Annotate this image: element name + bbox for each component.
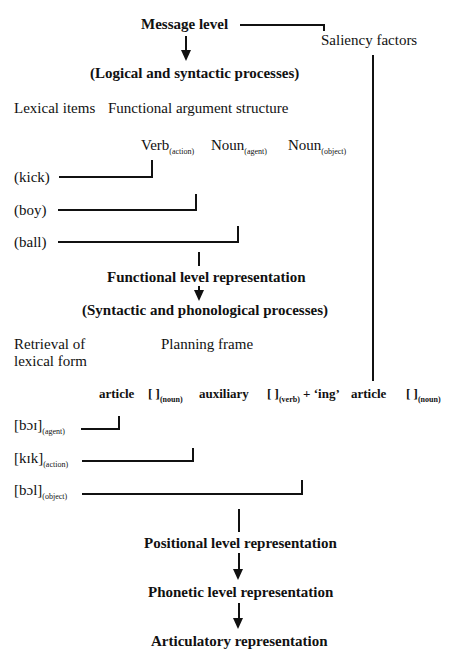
boy-link-line	[58, 209, 197, 211]
retrieval-label-line2: lexical form	[14, 354, 87, 369]
saliency-factors-label: Saliency factors	[321, 33, 417, 48]
ball-form-link-line	[82, 493, 303, 495]
lexical-item-kick: (kick)	[14, 170, 50, 185]
logical-syntactic-processes-label: (Logical and syntactic processes)	[90, 66, 299, 81]
message-level-label: Message level	[141, 17, 228, 32]
boy-form-link-line	[81, 428, 120, 430]
kick-link-line	[59, 176, 153, 178]
frame-auxiliary: auxiliary	[199, 387, 249, 400]
kick-form-link-line	[82, 460, 194, 462]
slot-noun-agent: Noun(agent)	[211, 138, 267, 153]
frame-noun-slot-2: [ ](noun)	[406, 387, 441, 400]
slot-noun-object: Noun(object)	[288, 138, 346, 153]
message-to-saliency-line	[240, 24, 324, 26]
functional-argument-structure-label: Functional argument structure	[108, 101, 289, 116]
frame-article-2: article	[351, 387, 386, 400]
lexical-items-label: Lexical items	[14, 101, 95, 116]
ball-link-line	[58, 241, 239, 243]
form-ball-object: [bɔl](object)	[14, 483, 67, 498]
functional-level-label: Functional level representation	[107, 270, 306, 285]
lexical-item-boy: (boy)	[14, 203, 47, 218]
down-arrow-icon	[181, 50, 191, 61]
positional-level-label: Positional level representation	[144, 536, 337, 551]
kick-form-link-drop	[192, 448, 194, 461]
saliency-vertical-line	[372, 55, 374, 381]
syntactic-phonological-processes-label: (Syntactic and phonological processes)	[82, 303, 328, 318]
slot-verb-action: Verb(action)	[141, 138, 194, 153]
message-to-saliency-drop	[323, 24, 325, 31]
form-kick-action: [kɪk](action)	[14, 451, 68, 466]
frame-verb-slot: [ ](verb) + ‘ing’	[267, 387, 340, 400]
boy-form-link-drop	[118, 416, 120, 429]
articulatory-representation-label: Articulatory representation	[151, 634, 328, 649]
functional-connector	[198, 252, 200, 266]
positional-connector	[238, 509, 240, 532]
frame-noun-slot-1: [ ](noun)	[148, 387, 183, 400]
frame-article-1: article	[99, 387, 134, 400]
boy-link-drop	[195, 194, 197, 210]
kick-link-drop	[151, 160, 153, 177]
down-arrow-icon	[233, 618, 243, 629]
phonetic-level-label: Phonetic level representation	[148, 585, 333, 600]
retrieval-label-line1: Retrieval of	[14, 337, 85, 352]
down-arrow-icon	[194, 290, 204, 301]
ball-form-link-drop	[301, 480, 303, 494]
down-arrow-icon	[233, 569, 243, 580]
lexical-item-ball: (ball)	[14, 235, 46, 250]
planning-frame-label: Planning frame	[161, 337, 253, 352]
ball-link-drop	[237, 226, 239, 242]
form-boy-agent: [bɔɪ](agent)	[14, 418, 65, 433]
